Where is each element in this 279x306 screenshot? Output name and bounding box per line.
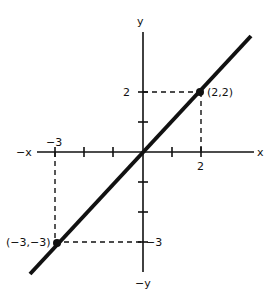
x-axis-label: x [257, 146, 264, 159]
x-tick-label-2: 2 [197, 160, 204, 173]
coordinate-plane: y −y x −x 2 −3 2 −3 (2,2) (−3,−3) [0, 0, 279, 306]
graph-diagram: y −y x −x 2 −3 2 −3 (2,2) (−3,−3) [0, 0, 279, 306]
neg-y-axis-label: −y [135, 277, 151, 290]
neg-x-axis-label: −x [16, 146, 32, 159]
point-label-neg3-neg3: (−3,−3) [6, 236, 51, 249]
x-tick-label-neg3: −3 [46, 136, 62, 149]
point-label-2-2: (2,2) [207, 86, 233, 99]
line-y-equals-x [30, 36, 251, 274]
point-2-2 [196, 88, 204, 96]
point-neg3-neg3 [53, 239, 61, 247]
y-tick-label-2: 2 [123, 86, 130, 99]
y-axis-label: y [137, 15, 144, 28]
y-tick-label-neg3: −3 [146, 236, 162, 249]
